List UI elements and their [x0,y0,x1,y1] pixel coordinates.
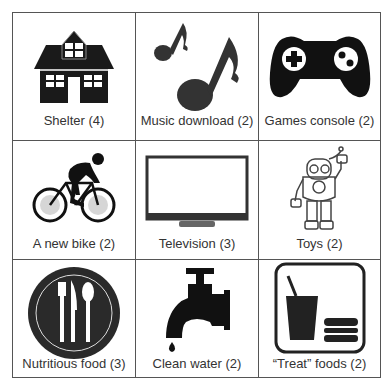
item-label: “Treat” foods (2) [259,356,380,371]
item-label: Music download (2) [136,113,258,128]
robot-toy-icon [259,145,380,235]
items-grid: Shelter (4) Music download (2) [12,12,381,378]
house-icon [13,25,135,105]
gamepad-icon [259,33,380,101]
item-label: Nutritious food (3) [13,356,135,371]
cyclist-icon [13,153,135,225]
music-notes-icon [136,17,258,113]
grid-cell-toys: Toys (2) [259,141,380,260]
grid-cell-music-download: Music download (2) [136,13,259,141]
item-label: Shelter (4) [13,113,135,128]
water-tap-icon [136,264,258,352]
drink-burger-icon [259,262,380,356]
grid-cell-treat-foods: “Treat” foods (2) [259,260,380,377]
grid-cell-games-console: Games console (2) [259,13,380,141]
item-label: Games console (2) [259,113,380,128]
item-label: Toys (2) [259,236,380,251]
grid-cell-bike: A new bike (2) [13,141,136,260]
grid-cell-nutritious-food: Nutritious food (3) [13,260,136,377]
grid-cell-clean-water: Clean water (2) [136,260,259,377]
item-label: A new bike (2) [13,236,135,251]
item-label: Television (3) [136,236,258,251]
plate-cutlery-icon [13,266,135,360]
grid-cell-shelter: Shelter (4) [13,13,136,141]
item-label: Clean water (2) [136,356,258,371]
grid-cell-television: Television (3) [136,141,259,260]
television-icon [136,155,258,231]
